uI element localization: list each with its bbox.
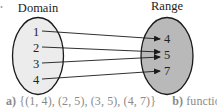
caption-b-text: function — [186, 94, 217, 108]
caption-a-text: {(1, 4), (2, 5), (3, 5), (4, 7)} — [19, 94, 156, 108]
caption-a-label: a) — [6, 94, 16, 108]
domain-value: 1 — [33, 25, 39, 39]
caption-b-label: b) — [172, 94, 183, 108]
domain-title: Domain — [18, 1, 59, 15]
bullet-mark — [1, 6, 3, 8]
caption: a) {(1, 4), (2, 5), (3, 5), (4, 7)} b) f… — [6, 94, 217, 109]
range-title: Range — [151, 0, 183, 13]
domain-value: 4 — [33, 73, 40, 87]
range-value: 4 — [164, 32, 171, 46]
domain-value: 3 — [33, 57, 39, 71]
range-value: 7 — [164, 64, 170, 78]
range-value: 5 — [164, 48, 170, 62]
domain-value: 2 — [33, 41, 39, 55]
